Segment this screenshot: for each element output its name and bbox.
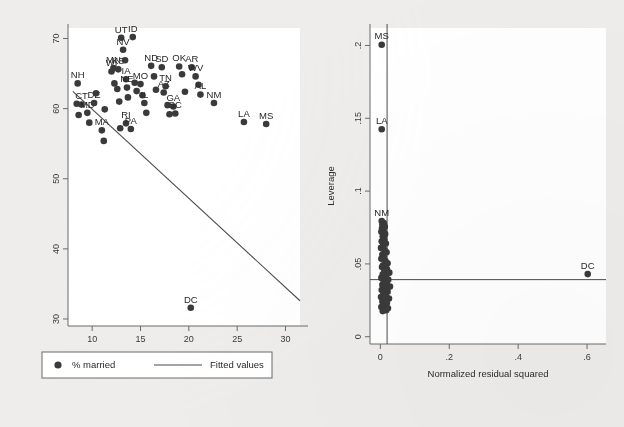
scatter-point	[584, 271, 591, 278]
scatter-point	[100, 138, 107, 145]
scatter-point	[117, 125, 124, 132]
left-x-tick-label: 20	[184, 334, 194, 344]
scatter-point	[122, 57, 129, 64]
right-panel-plot: 0.05.1.15.20.2.4.6Normalized residual sq…	[318, 0, 624, 400]
scatter-point	[84, 110, 91, 117]
right-x-tick-label: 0	[378, 352, 383, 362]
scatter-point-label: WV	[188, 62, 204, 73]
left-y-tick-label: 50	[51, 174, 61, 184]
scatter-point	[75, 112, 82, 119]
scatter-point	[162, 83, 169, 90]
scatter-point-label: AL	[195, 80, 207, 91]
right-y-tick-label: .1	[353, 187, 363, 195]
left-x-tick-label: 30	[280, 334, 290, 344]
scatter-point	[86, 119, 93, 126]
scatter-point	[128, 126, 135, 133]
figure-canvas: 30405060701015202530% in povertyNHCTMDDE…	[0, 0, 624, 427]
scatter-point-label: MS	[375, 30, 389, 41]
scatter-point	[158, 64, 165, 71]
scatter-point	[118, 35, 125, 42]
scatter-point	[124, 84, 131, 91]
left-y-tick-label: 70	[51, 34, 61, 44]
left-y-tick-label: 60	[51, 104, 61, 114]
right-x-axis-title: Normalized residual squared	[428, 368, 549, 379]
scatter-point	[99, 127, 106, 134]
scatter-point	[91, 100, 98, 107]
scatter-point	[378, 126, 385, 133]
scatter-point-label: DC	[184, 294, 198, 305]
scatter-point	[101, 106, 108, 113]
scatter-point	[378, 41, 385, 48]
scatter-point	[166, 111, 173, 118]
scatter-point-label: PA	[125, 115, 138, 126]
scatter-point	[125, 94, 132, 101]
right-x-tick-label: .4	[514, 352, 522, 362]
scatter-point	[120, 46, 127, 53]
right-y-tick-label: .15	[353, 112, 363, 125]
scatter-point	[241, 119, 248, 126]
scatter-point	[114, 86, 121, 93]
scatter-point-label: SC	[169, 99, 182, 110]
scatter-point-label: UT	[115, 24, 128, 35]
scatter-point	[148, 63, 155, 70]
scatter-point-label: MO	[133, 70, 148, 81]
right-y-tick-label: 0	[353, 334, 363, 339]
scatter-point-label: NH	[71, 69, 85, 80]
right-x-tick-label: .2	[445, 352, 453, 362]
scatter-point	[151, 73, 158, 80]
scatter-point-label: DC	[581, 260, 595, 271]
right-y-axis-title: Leverage	[325, 166, 336, 206]
scatter-point	[179, 71, 186, 78]
scatter-point-label: MS	[259, 110, 273, 121]
scatter-point-label: LA	[238, 108, 250, 119]
right-plot-area	[370, 28, 606, 344]
right-x-tick-label: .6	[583, 352, 591, 362]
left-x-tick-label: 25	[232, 334, 242, 344]
scatter-point	[93, 90, 100, 97]
left-panel-plot: 30405060701015202530% in povertyNHCTMDDE…	[0, 0, 320, 400]
scatter-point-label: LA	[376, 115, 388, 126]
scatter-point-label: TN	[159, 72, 172, 83]
scatter-point-label: MA	[95, 116, 110, 127]
left-x-tick-label: 15	[135, 334, 145, 344]
scatter-point	[129, 34, 136, 41]
left-panel: 30405060701015202530% in povertyNHCTMDDE…	[0, 0, 320, 400]
scatter-point-label: NM	[207, 89, 222, 100]
scatter-point	[141, 100, 148, 107]
scatter-point	[116, 98, 123, 105]
scatter-point	[187, 304, 194, 311]
legend-marker-label: % married	[72, 359, 115, 370]
scatter-point	[74, 80, 81, 87]
scatter-point	[176, 63, 183, 70]
scatter-point-label: IL	[140, 89, 148, 100]
legend-marker-icon	[54, 361, 61, 368]
left-x-tick-label: 10	[87, 334, 97, 344]
scatter-point	[111, 80, 118, 87]
scatter-point	[197, 91, 204, 98]
scatter-point	[182, 89, 189, 96]
scatter-point-label: ID	[128, 23, 138, 34]
right-y-tick-label: .05	[353, 258, 363, 271]
scatter-point	[133, 88, 140, 95]
right-y-tick-label: .2	[353, 42, 363, 50]
scatter-point-label: NM	[374, 207, 389, 218]
right-panel: 0.05.1.15.20.2.4.6Normalized residual sq…	[318, 0, 624, 400]
left-y-tick-label: 30	[51, 314, 61, 324]
left-y-tick-label: 40	[51, 244, 61, 254]
scatter-point-label: SD	[155, 53, 168, 64]
scatter-point	[263, 121, 270, 128]
scatter-point	[143, 110, 150, 117]
legend-line-label: Fitted values	[210, 359, 264, 370]
scatter-point	[137, 81, 144, 88]
scatter-point	[211, 100, 218, 107]
scatter-point	[379, 308, 386, 315]
scatter-point	[172, 110, 179, 117]
scatter-point	[192, 73, 199, 80]
